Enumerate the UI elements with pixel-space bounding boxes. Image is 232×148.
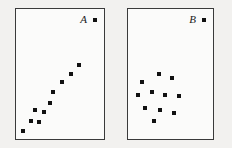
scatter-panel-a: A bbox=[15, 8, 105, 140]
panel-b-legend-square-marker bbox=[202, 18, 206, 22]
scatter-plot-area-a bbox=[16, 9, 104, 139]
data-point bbox=[177, 94, 181, 98]
data-point bbox=[51, 90, 55, 94]
data-point bbox=[37, 120, 41, 124]
panel-a-label: A bbox=[80, 14, 87, 25]
data-point bbox=[143, 106, 147, 110]
data-point bbox=[150, 90, 154, 94]
data-point bbox=[33, 108, 37, 112]
data-point bbox=[60, 80, 64, 84]
data-point bbox=[157, 72, 161, 76]
data-point bbox=[42, 110, 46, 114]
data-point bbox=[140, 80, 144, 84]
panel-b-label: B bbox=[189, 14, 196, 25]
data-point bbox=[29, 119, 33, 123]
data-point bbox=[172, 111, 176, 115]
panel-a-legend-square-marker bbox=[93, 18, 97, 22]
scatter-plot-area-b bbox=[128, 9, 213, 139]
data-point bbox=[21, 129, 25, 133]
scatter-panel-b: B bbox=[127, 8, 214, 140]
data-point bbox=[77, 63, 81, 67]
data-point bbox=[48, 101, 52, 105]
data-point bbox=[69, 72, 73, 76]
data-point bbox=[136, 93, 140, 97]
data-point bbox=[152, 119, 156, 123]
data-point bbox=[170, 76, 174, 80]
data-point bbox=[158, 108, 162, 112]
scatterplot-figure: A B bbox=[0, 0, 232, 148]
data-point bbox=[163, 93, 167, 97]
